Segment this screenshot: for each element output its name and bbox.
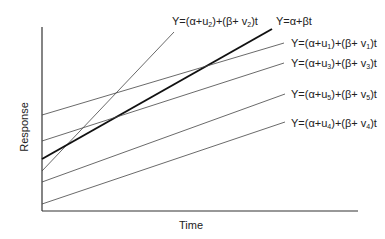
line-mean <box>42 29 272 159</box>
label-mean: Y=α+βt <box>276 15 312 27</box>
label-u4: Y=(α+u4)+(β+ v4)t <box>291 117 377 129</box>
label-u5: Y=(α+u5)+(β+ v5)t <box>291 88 377 100</box>
label-u2: Y=(α+u2)+(β+ v2)t <box>172 15 258 27</box>
line-u1 <box>42 43 284 115</box>
label-u1: Y=(α+u1)+(β+ v1)t <box>291 37 377 49</box>
line-u2 <box>42 32 174 171</box>
label-u3: Y=(α+u3)+(β+ v3)t <box>291 57 377 69</box>
x-axis-label: Time <box>179 219 203 231</box>
line-u3 <box>42 63 284 141</box>
y-axis-label: Response <box>18 101 30 153</box>
line-u4 <box>42 122 285 204</box>
